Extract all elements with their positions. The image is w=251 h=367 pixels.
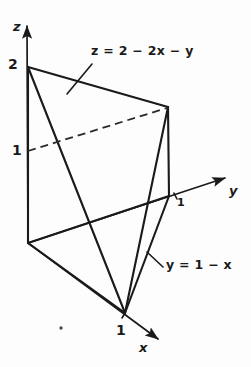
edge-ytop-to-xvertex — [125, 107, 168, 313]
edge-top-slant — [28, 67, 168, 107]
edge-top-to-xvertex — [28, 67, 125, 313]
line-equation-label: y = 1 − x — [166, 259, 232, 272]
z-axis-label: z — [13, 20, 21, 33]
hidden-edge-dashed — [28, 108, 167, 151]
x-axis-label: x — [139, 341, 147, 354]
axes-group — [27, 26, 225, 339]
leader-lines-group — [67, 64, 163, 267]
hidden-edges-group — [28, 108, 167, 151]
leader-line-equation — [147, 252, 163, 267]
geometry-figure: z y x 2 1 1 1 z = 2 − 2x − y y = 1 − x — [0, 0, 251, 367]
y-tick-label-1: 1 — [177, 197, 185, 208]
ink-dot — [59, 326, 62, 329]
x-tick-label-1: 1 — [116, 323, 126, 337]
z-tick-label-1: 1 — [12, 143, 22, 157]
z-tick-label-2: 2 — [8, 57, 18, 71]
edge-right-vertical — [168, 107, 169, 196]
edge-ybase-to-xvertex — [125, 196, 169, 313]
solid-edges-group — [28, 67, 169, 313]
plane-equation-label: z = 2 − 2x − y — [91, 45, 194, 58]
y-axis-label: y — [229, 184, 237, 197]
